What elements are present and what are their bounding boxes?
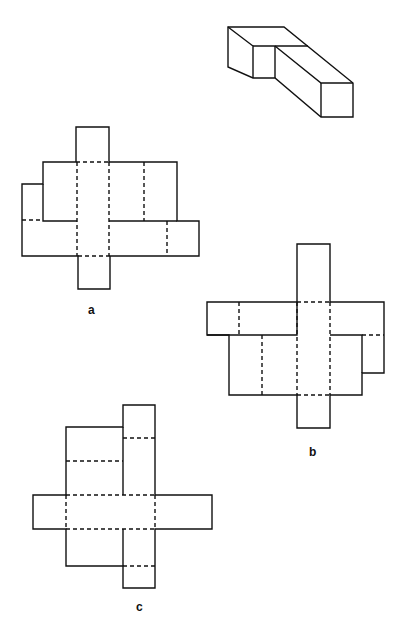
net-a (22, 127, 199, 289)
solid-block (228, 27, 353, 117)
net-c (33, 405, 212, 588)
diagram-canvas: a b c (0, 0, 401, 629)
label-c: c (136, 600, 143, 614)
label-b: b (309, 445, 316, 459)
net-b (207, 244, 384, 428)
label-a: a (88, 303, 95, 317)
